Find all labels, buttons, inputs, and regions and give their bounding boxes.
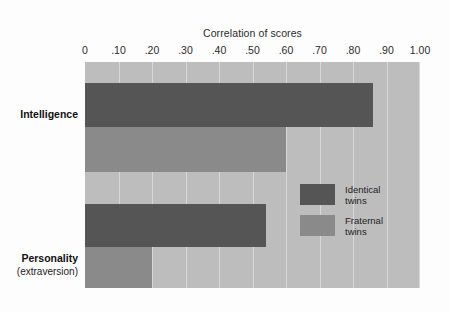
legend-label-line1: Identical bbox=[345, 184, 380, 195]
x-tick-label: .50 bbox=[245, 44, 260, 56]
legend-swatch-fraternal bbox=[300, 215, 335, 236]
plot-area bbox=[85, 62, 420, 288]
x-tick-label: .10 bbox=[111, 44, 126, 56]
x-tick-label: 1.00 bbox=[410, 44, 430, 56]
x-tick-label: .90 bbox=[379, 44, 394, 56]
legend-item-fraternal: Fraternaltwins bbox=[300, 215, 383, 237]
y-axis-category-personality: Personality(extraversion) bbox=[17, 252, 78, 278]
gridline bbox=[419, 62, 420, 288]
x-tick-label: .30 bbox=[178, 44, 193, 56]
legend-swatch-identical bbox=[300, 184, 335, 205]
category-sublabel: (extraversion) bbox=[17, 265, 78, 278]
bar-personality-identical bbox=[85, 204, 266, 247]
y-axis-category-intelligence: Intelligence bbox=[20, 108, 78, 121]
x-tick-label: 0 bbox=[82, 44, 88, 56]
legend-item-identical: Identicaltwins bbox=[300, 184, 380, 206]
legend-label: Fraternaltwins bbox=[345, 215, 383, 237]
bar-personality-fraternal bbox=[85, 247, 152, 288]
gridline bbox=[387, 62, 388, 288]
x-tick-label: .70 bbox=[312, 44, 327, 56]
x-tick-label: .20 bbox=[145, 44, 160, 56]
x-tick-label: .80 bbox=[346, 44, 361, 56]
legend-label-line2: twins bbox=[345, 226, 383, 237]
category-label: Personality bbox=[17, 252, 78, 265]
x-axis: 0.10.20.30.40.50.60.70.80.901.00 bbox=[0, 44, 450, 60]
legend-label-line1: Fraternal bbox=[345, 215, 383, 226]
bar-intelligence-fraternal bbox=[85, 127, 286, 172]
legend-label-line2: twins bbox=[345, 195, 380, 206]
legend-label: Identicaltwins bbox=[345, 184, 380, 206]
x-tick-label: .40 bbox=[212, 44, 227, 56]
bar-intelligence-identical bbox=[85, 83, 373, 127]
x-tick-label: .60 bbox=[279, 44, 294, 56]
category-label: Intelligence bbox=[20, 108, 78, 121]
figure: Correlation of scores 0.10.20.30.40.50.6… bbox=[0, 0, 450, 312]
chart-title: Correlation of scores bbox=[85, 27, 420, 39]
